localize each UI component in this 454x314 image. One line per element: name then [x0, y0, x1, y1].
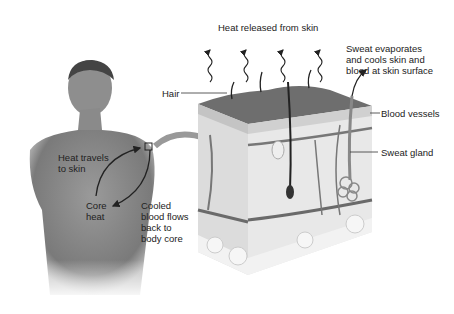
- label-heat-travels: Heat travels to skin: [58, 152, 109, 174]
- human-figure: [30, 60, 160, 300]
- label-heat-released: Heat released from skin: [218, 22, 318, 33]
- heat-wave-arrows: [208, 50, 322, 82]
- label-hair: Hair: [162, 88, 179, 99]
- skin-cross-section: [198, 70, 372, 275]
- label-sweat-evaporates: Sweat evaporates and cools skin and bloo…: [346, 43, 433, 76]
- label-cooled-blood: Cooled blood flows back to body core: [141, 200, 189, 244]
- label-blood-vessels: Blood vessels: [381, 108, 440, 119]
- label-sweat-gland: Sweat gland: [381, 147, 433, 158]
- zoom-arrow: [155, 134, 205, 146]
- label-core-heat: Core heat: [86, 200, 107, 222]
- sebaceous-gland: [272, 141, 284, 159]
